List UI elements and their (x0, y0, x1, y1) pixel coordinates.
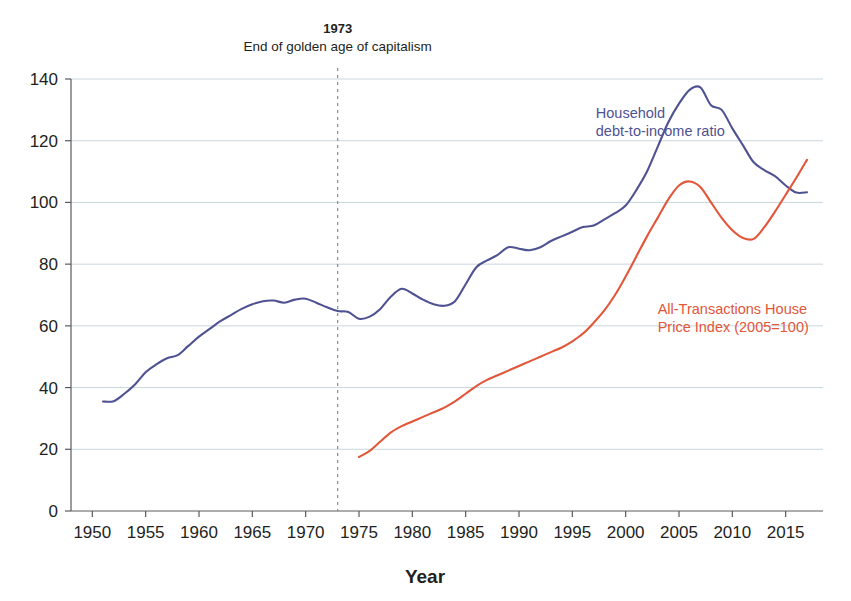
y-tick-label: 100 (30, 193, 58, 212)
y-tick-label: 80 (39, 255, 58, 274)
annotation-subtitle: End of golden age of capitalism (243, 39, 431, 54)
y-tick-label: 140 (30, 70, 58, 89)
x-tick-label: 1990 (500, 523, 538, 542)
x-tick-label: 1970 (287, 523, 325, 542)
y-tick-label: 0 (49, 502, 58, 521)
annotation-title: 1973 (323, 21, 352, 36)
y-tick-label: 40 (39, 379, 58, 398)
series-label-0: Household (596, 105, 665, 121)
y-tick-label: 60 (39, 317, 58, 336)
x-tick-label: 1985 (447, 523, 485, 542)
y-tick-label: 20 (39, 440, 58, 459)
line-chart: 1950195519601965197019751980198519901995… (0, 0, 851, 601)
y-tick-label: 120 (30, 132, 58, 151)
x-tick-label: 1960 (180, 523, 218, 542)
x-tick-label: 1955 (127, 523, 165, 542)
x-tick-label: 2015 (767, 523, 805, 542)
series-label-0: debt-to-income ratio (596, 123, 725, 139)
x-tick-label: 1975 (340, 523, 378, 542)
series-label-1: Price Index (2005=100) (658, 319, 809, 335)
x-tick-label: 2010 (713, 523, 751, 542)
x-axis-title: Year (405, 566, 446, 587)
x-tick-label: 1965 (233, 523, 271, 542)
x-tick-label: 1980 (393, 523, 431, 542)
x-tick-label: 2005 (660, 523, 698, 542)
chart-figure: 1950195519601965197019751980198519901995… (0, 0, 851, 601)
x-tick-label: 1950 (73, 523, 111, 542)
x-tick-label: 1995 (553, 523, 591, 542)
series-label-1: All-Transactions House (658, 301, 807, 317)
x-tick-label: 2000 (607, 523, 645, 542)
